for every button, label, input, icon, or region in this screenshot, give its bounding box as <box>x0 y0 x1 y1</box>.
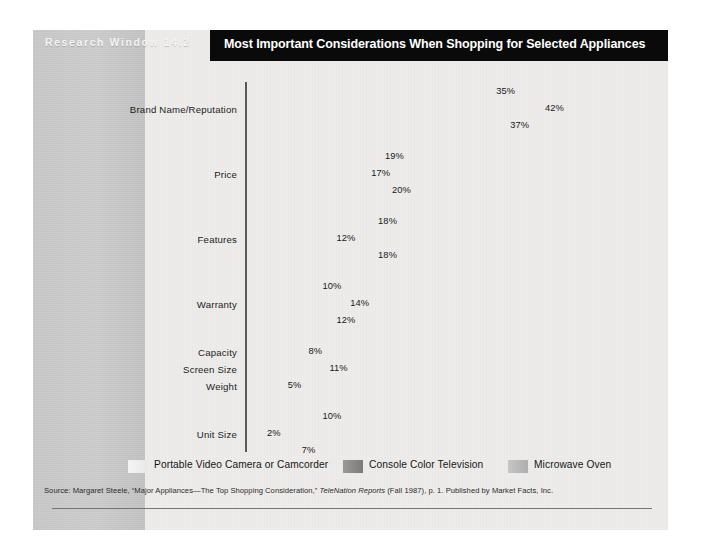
category-label: Screen Size <box>69 364 237 375</box>
bottom-rule <box>52 508 652 509</box>
bar-value-label: 18% <box>378 216 397 226</box>
bar-value-label: 42% <box>545 103 564 113</box>
bar-row: 14% <box>247 298 344 311</box>
bar-row: 18% <box>247 216 372 229</box>
bar-row: 19% <box>247 151 379 164</box>
bar-value-label: 2% <box>267 428 281 438</box>
bar-row: 2% <box>247 428 261 441</box>
bar-value-label: 19% <box>385 151 404 161</box>
bar-value-label: 17% <box>371 168 390 178</box>
bar-row: 20% <box>247 185 386 198</box>
bar-row: 10% <box>247 281 317 294</box>
source-publication: TeleNation Reports <box>320 486 386 495</box>
source-suffix: (Fall 1987), p. 1. Published by Market F… <box>385 486 553 495</box>
bar-value-label: 5% <box>288 380 302 390</box>
bar-row: 37% <box>247 120 504 133</box>
source-note: Source: Margaret Steele, “Major Applianc… <box>44 486 656 496</box>
category-label: Weight <box>69 381 237 392</box>
bar-value-label: 10% <box>323 281 342 291</box>
research-window-label: Research Window 14.2 <box>45 36 210 48</box>
bar-row: 35% <box>247 86 490 99</box>
chart-legend: Portable Video Camera or CamcorderConsol… <box>33 458 668 480</box>
bar-value-label: 10% <box>323 411 342 421</box>
bar-value-label: 35% <box>496 86 515 96</box>
bar-row: 12% <box>247 233 330 246</box>
bar-value-label: 12% <box>336 233 355 243</box>
bar-value-label: 14% <box>350 298 369 308</box>
bar-value-label: 12% <box>336 315 355 325</box>
category-label: Capacity <box>69 347 237 358</box>
bar-row: 18% <box>247 250 372 263</box>
page-root: Research Window 14.2 Most Important Cons… <box>0 0 705 552</box>
bar-row: 5% <box>247 380 282 393</box>
bar-value-label: 18% <box>378 250 397 260</box>
legend-label: Portable Video Camera or Camcorder <box>154 459 328 470</box>
category-label: Warranty <box>69 299 237 310</box>
bar-value-label: 7% <box>302 445 316 455</box>
page-title: Most Important Considerations When Shopp… <box>224 37 645 51</box>
category-label: Price <box>69 169 237 180</box>
bar-row: 12% <box>247 315 330 328</box>
bar-row: 10% <box>247 411 317 424</box>
legend-label: Console Color Television <box>369 459 483 470</box>
bar-value-label: 20% <box>392 185 411 195</box>
legend-label: Microwave Oven <box>534 459 611 470</box>
bar-row: 42% <box>247 103 539 116</box>
category-label: Brand Name/Reputation <box>69 104 237 115</box>
legend-swatch <box>128 460 148 473</box>
value-axis-line <box>245 82 247 452</box>
bar-row: 7% <box>247 445 296 458</box>
source-prefix: Source: Margaret Steele, “Major Applianc… <box>44 486 320 495</box>
bar-value-label: 37% <box>510 120 529 130</box>
category-label: Unit Size <box>69 429 237 440</box>
bar-row: 11% <box>247 363 323 376</box>
legend-swatch <box>343 460 363 473</box>
bar-row: 8% <box>247 346 303 359</box>
bar-chart: 35%42%37%Brand Name/Reputation19%17%20%P… <box>33 72 668 452</box>
title-bar: Most Important Considerations When Shopp… <box>210 30 668 61</box>
bar-value-label: 11% <box>329 363 347 373</box>
bar-value-label: 8% <box>309 346 323 356</box>
category-label: Features <box>69 234 237 245</box>
legend-swatch <box>508 460 528 473</box>
bar-row: 17% <box>247 168 365 181</box>
